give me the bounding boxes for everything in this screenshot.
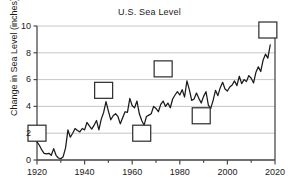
- box-1989[interactable]: [192, 108, 210, 124]
- y-tick-label-0: 0: [26, 155, 31, 165]
- x-tick-label-2000: 2000: [217, 167, 237, 177]
- y-tick-label-10: 10: [21, 21, 31, 31]
- y-tick-label-6: 6: [26, 74, 31, 84]
- y-tick-label-2: 2: [26, 128, 31, 138]
- sea-level-line-chart: 0246810 192019401960198020002020: [0, 0, 299, 192]
- box-1964[interactable]: [133, 125, 151, 141]
- y-tick-labels: 0246810: [21, 21, 31, 165]
- box-2017[interactable]: [259, 22, 277, 38]
- gridlines: [37, 26, 275, 160]
- x-tick-label-1940: 1940: [75, 167, 95, 177]
- chart-page: U.S. Sea Level Change in Sea Level (inch…: [0, 0, 299, 192]
- x-tick-label-2020: 2020: [265, 167, 285, 177]
- axis-spines: [37, 26, 275, 160]
- y-tick-label-4: 4: [26, 101, 31, 111]
- x-tick-label-1960: 1960: [122, 167, 142, 177]
- box-1973[interactable]: [154, 61, 172, 77]
- blank-boxes-group: [28, 22, 277, 141]
- x-tick-marks: [37, 160, 275, 165]
- x-tick-labels: 192019401960198020002020: [27, 167, 285, 177]
- x-tick-label-1920: 1920: [27, 167, 47, 177]
- x-tick-label-1980: 1980: [170, 167, 190, 177]
- box-1948[interactable]: [95, 82, 113, 98]
- y-tick-label-8: 8: [26, 48, 31, 58]
